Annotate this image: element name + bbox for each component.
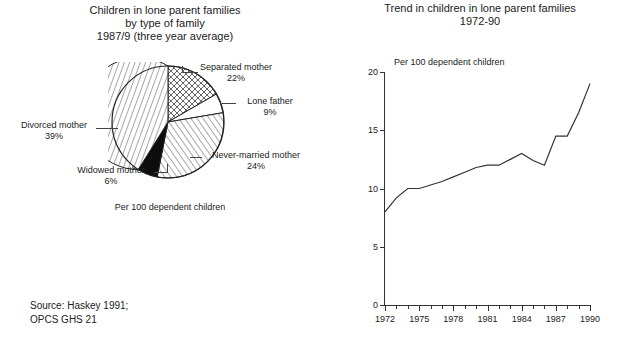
y-tick-label: 15: [368, 126, 378, 135]
x-tick-label-1987: 1987: [546, 315, 566, 324]
x-tick-1988: [567, 305, 568, 309]
x-tick-1987: [556, 305, 557, 311]
x-tick-1984: [522, 305, 523, 311]
source-note: Source: Haskey 1991; OPCS GHS 21: [30, 299, 250, 327]
line-series-svg: [385, 72, 590, 305]
line-chart-axis-note: Per 100 dependent children: [394, 57, 554, 68]
x-tick-1985: [533, 305, 534, 309]
line-chart-title: Trend in children in lone parent familie…: [355, 2, 605, 28]
x-tick-1989: [579, 305, 580, 309]
x-tick-1978: [453, 305, 454, 311]
pie-label-separated: Separated mother 22%: [178, 62, 294, 84]
x-tick-1990: [590, 305, 591, 311]
y-tick-label: 20: [368, 68, 378, 77]
x-tick-1973: [396, 305, 397, 309]
x-tick-1982: [499, 305, 500, 309]
x-tick-1977: [442, 305, 443, 309]
x-tick-label-1978: 1978: [443, 315, 463, 324]
pie-label-divorced: Divorced mother 39%: [8, 120, 100, 142]
x-tick-1981: [488, 305, 489, 311]
pie-chart-title: Children in lone parent families by type…: [45, 4, 285, 43]
x-tick-1979: [465, 305, 466, 309]
pie-chart-panel: Children in lone parent families by type…: [0, 0, 330, 342]
pie-label-widowed: Widowed mother 6%: [54, 165, 168, 187]
line-plot-area: 05101520 1972197519781981198419871990: [385, 72, 590, 305]
pie-chart-caption: Per 100 dependent children: [80, 202, 260, 213]
pie-label-never-married: Never-married mother 24%: [196, 150, 316, 172]
x-tick-label-1981: 1981: [477, 315, 497, 324]
y-tick-label: 10: [368, 185, 378, 194]
x-tick-label-1975: 1975: [409, 315, 429, 324]
x-tick-1974: [408, 305, 409, 309]
x-tick-1976: [431, 305, 432, 309]
x-tick-1986: [544, 305, 545, 309]
x-tick-1980: [476, 305, 477, 309]
pie-label-lone-father: Lone father 9%: [232, 96, 308, 118]
x-tick-1975: [419, 305, 420, 311]
x-tick-1972: [385, 305, 386, 311]
x-tick-1983: [510, 305, 511, 309]
x-tick-label-1972: 1972: [375, 315, 395, 324]
y-tick-label: 0: [373, 301, 378, 310]
x-tick-label-1984: 1984: [512, 315, 532, 324]
y-tick-label: 5: [373, 243, 378, 252]
line-series-path: [385, 84, 590, 212]
x-tick-label-1990: 1990: [580, 315, 600, 324]
figure-canvas: Children in lone parent families by type…: [0, 0, 621, 342]
line-chart-panel: Trend in children in lone parent familie…: [330, 0, 621, 342]
